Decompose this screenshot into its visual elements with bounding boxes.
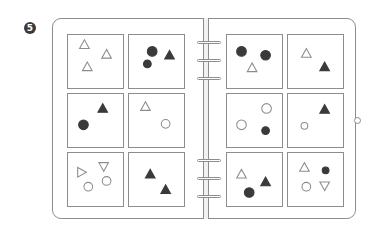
filled-circle-icon <box>322 167 329 174</box>
filled-triangle-up-icon <box>161 185 171 194</box>
panel-L6 <box>128 152 185 207</box>
panel-L4 <box>128 93 185 148</box>
panel-R3 <box>226 93 283 148</box>
outline-circle-icon <box>102 177 111 186</box>
outline-triangle-up-icon <box>102 49 112 58</box>
panel-L5 <box>67 152 124 207</box>
filled-triangle-up-icon <box>261 177 271 186</box>
filled-triangle-up-icon <box>320 105 330 114</box>
panel-L3 <box>67 93 124 148</box>
outline-triangle-up-icon <box>302 48 312 57</box>
panel-L2 <box>128 34 185 89</box>
filled-circle-icon <box>143 60 151 68</box>
outline-triangle-down-icon <box>99 163 109 172</box>
spine-ring-icon <box>197 41 221 44</box>
outline-triangle-up-icon <box>82 62 92 71</box>
filled-circle-icon <box>262 127 270 135</box>
outline-triangle-up-icon <box>80 40 90 49</box>
outline-circle-icon <box>84 182 93 191</box>
filled-circle-icon <box>261 50 271 60</box>
filled-triangle-up-icon <box>145 169 155 178</box>
filled-triangle-up-icon <box>165 50 175 59</box>
panel-R4 <box>287 93 344 148</box>
spine-ring-icon <box>197 195 221 198</box>
binder-spine <box>203 18 209 219</box>
spine-ring-icon <box>197 177 221 180</box>
outline-triangle-up-icon <box>300 163 310 172</box>
figure-number-badge: 5 <box>24 22 36 34</box>
outline-circle-icon <box>301 122 308 129</box>
panel-L1 <box>67 34 124 89</box>
clasp-icon <box>354 117 361 124</box>
panel-R1 <box>226 34 283 89</box>
filled-triangle-up-icon <box>98 104 108 113</box>
outline-circle-icon <box>262 104 272 114</box>
outline-circle-icon <box>237 120 247 130</box>
outline-triangle-up-icon <box>141 102 151 111</box>
filled-circle-icon <box>244 188 254 198</box>
filled-circle-icon <box>79 120 89 130</box>
outline-circle-icon <box>302 182 311 191</box>
spine-ring-icon <box>197 77 221 80</box>
outline-circle-icon <box>161 120 170 129</box>
spine-ring-icon <box>197 159 221 162</box>
outline-triangle-up-icon <box>237 169 247 178</box>
filled-circle-icon <box>237 47 247 57</box>
panel-R5 <box>226 152 283 207</box>
filled-triangle-up-icon <box>320 62 330 71</box>
outline-triangle-right-icon <box>78 167 87 177</box>
panel-R6 <box>287 152 344 207</box>
outline-triangle-up-icon <box>247 63 257 72</box>
outline-triangle-down-icon <box>320 182 330 191</box>
filled-circle-icon <box>147 47 157 57</box>
spine-ring-icon <box>197 59 221 62</box>
panel-R2 <box>287 34 344 89</box>
